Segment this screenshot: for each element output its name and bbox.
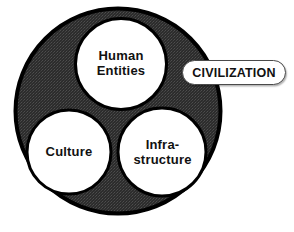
callout-civilization-label: CIVILIZATION xyxy=(192,66,275,80)
circle-infrastructure xyxy=(118,108,206,196)
callout-civilization: CIVILIZATION xyxy=(182,60,286,85)
circle-human-entities xyxy=(76,19,167,110)
civilization-diagram: Human Entities Culture Infra- structure … xyxy=(0,0,294,232)
circle-culture xyxy=(27,110,111,194)
venn-diagram-graphic xyxy=(0,0,294,232)
